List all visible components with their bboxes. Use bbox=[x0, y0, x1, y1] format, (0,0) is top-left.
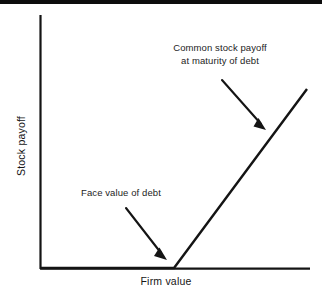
annotation-common-stock-payoff-line1: Common stock payoff bbox=[166, 42, 274, 55]
annotation-common-stock-payoff: Common stock payoff at maturity of debt bbox=[166, 42, 274, 67]
payoff-diagram-figure: Common stock payoff at maturity of debt … bbox=[0, 0, 322, 296]
x-axis-title: Firm value bbox=[120, 275, 212, 287]
callout-arrow-common-stock bbox=[222, 80, 266, 130]
y-axis-title: Stock payoff bbox=[15, 100, 27, 192]
stock-payoff-line bbox=[41, 89, 307, 268]
annotation-face-value-of-debt: Face value of debt bbox=[76, 187, 166, 200]
annotation-common-stock-payoff-line2: at maturity of debt bbox=[166, 55, 274, 68]
callout-arrow-face-value bbox=[126, 208, 167, 260]
